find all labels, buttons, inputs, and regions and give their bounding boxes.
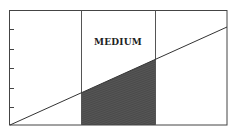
medium-label: MEDIUM [94,37,142,47]
medium-shaded-region [81,60,155,126]
y-axis-ticks [10,30,15,108]
diagram-canvas: MEDIUM [0,0,235,133]
